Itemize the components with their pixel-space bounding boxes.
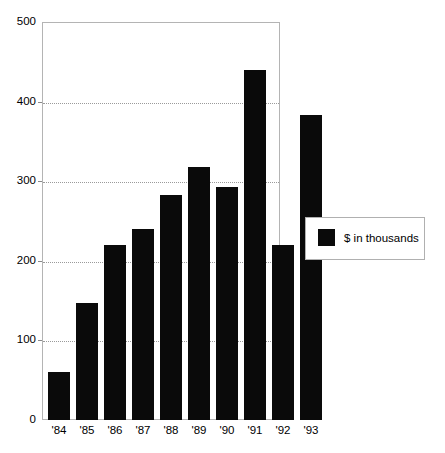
bar-92: [272, 245, 294, 420]
x-tick-text-4: '88: [164, 424, 179, 436]
bar-91: [244, 70, 266, 420]
x-tick-text-9: '93: [304, 424, 319, 436]
bars-layer: [42, 22, 280, 420]
x-tick-text-0: '84: [52, 424, 67, 436]
y-tick-text-500: 500: [17, 15, 36, 27]
bar-87: [132, 229, 154, 420]
y-axis-tick-label-500: 500: [0, 15, 36, 27]
x-tick-text-6: '90: [220, 424, 235, 436]
bar-84: [48, 372, 70, 420]
x-tick-text-1: '85: [80, 424, 95, 436]
y-tickmark-200: [38, 261, 42, 262]
bar-89: [188, 167, 210, 420]
x-axis-tick-label-9: '93: [294, 424, 328, 436]
y-tickmark-100: [38, 340, 42, 341]
y-axis-tick-label-100: 100: [0, 333, 36, 345]
bar-chart: 500 400 300 200 100 0 '84 '85 '86 '87 '8…: [0, 0, 445, 453]
y-tick-text-100: 100: [17, 333, 36, 345]
x-tick-text-5: '89: [192, 424, 207, 436]
x-tick-text-8: '92: [276, 424, 291, 436]
x-tick-text-7: '91: [248, 424, 263, 436]
bar-90: [216, 187, 238, 420]
y-tick-text-200: 200: [17, 254, 36, 266]
bar-88: [160, 195, 182, 420]
bar-85: [76, 303, 98, 420]
x-tick-text-2: '86: [108, 424, 123, 436]
y-axis-tick-label-0: 0: [0, 413, 36, 425]
y-tick-text-0: 0: [30, 413, 36, 425]
y-axis-tick-label-200: 200: [0, 254, 36, 266]
legend: $ in thousands: [305, 217, 425, 260]
legend-entry-0: $ in thousands: [318, 229, 419, 246]
y-tick-text-300: 300: [17, 174, 36, 186]
y-axis-tick-label-300: 300: [0, 174, 36, 186]
x-tick-text-3: '87: [136, 424, 151, 436]
y-tickmark-300: [38, 181, 42, 182]
bar-86: [104, 245, 126, 420]
y-axis-tick-label-400: 400: [0, 95, 36, 107]
legend-swatch-icon: [318, 229, 335, 246]
bar-93: [300, 115, 322, 420]
y-tick-text-400: 400: [17, 95, 36, 107]
legend-entry-label: $ in thousands: [344, 232, 419, 244]
y-tickmark-400: [38, 102, 42, 103]
